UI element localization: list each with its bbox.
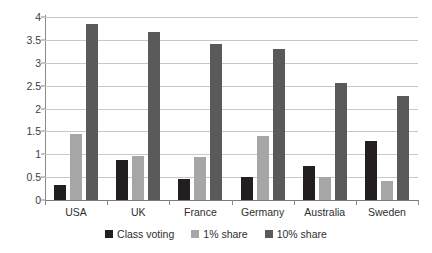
x-axis-category-label: UK [107,204,169,222]
y-axis-tick-label: 0 [3,195,41,206]
bar-group [294,17,356,200]
legend-label: 10% share [277,229,327,240]
y-axis-tick-label: 2.5 [3,80,41,91]
y-axis-tick-label: 2 [3,103,41,114]
x-axis-category-labels: USAUKFranceGermanyAustraliaSweden [45,204,418,222]
bar-chart: 00.511.522.533.54 USAUKFranceGermanyAust… [0,0,432,253]
x-axis-tick [418,200,419,205]
y-axis-tick-label: 1.5 [3,126,41,137]
bar [116,160,128,200]
bar [210,44,222,200]
y-axis-tick-labels: 00.511.522.533.54 [0,17,41,200]
y-axis-tick-label: 3.5 [3,35,41,46]
bar-group [356,17,418,200]
x-axis-category-label: USA [45,204,107,222]
legend-item[interactable]: 1% share [191,229,247,240]
bar-group [169,17,231,200]
bar [335,83,347,200]
x-axis-category-label: France [169,204,231,222]
bar [381,181,393,200]
x-axis-category-label: Australia [294,204,356,222]
x-axis-category-label: Germany [232,204,294,222]
bar [148,32,160,200]
x-axis-category-label: Sweden [356,204,418,222]
legend-label: Class voting [117,229,174,240]
bar [303,166,315,200]
bar [178,179,190,200]
bar [273,49,285,200]
bar-groups [45,17,418,200]
legend-item[interactable]: 10% share [265,229,327,240]
legend-swatch-icon [105,230,113,238]
bar [257,136,269,200]
y-axis-tick-label: 3 [3,58,41,69]
bar [54,185,66,200]
bar-group [107,17,169,200]
bar [397,96,409,200]
bar [241,177,253,200]
legend-swatch-icon [191,230,199,238]
y-axis-tick-label: 0.5 [3,172,41,183]
bar [319,177,331,200]
bar [86,24,98,200]
bar [132,156,144,200]
bar [70,134,82,200]
chart-legend: Class voting1% share10% share [0,229,432,240]
legend-swatch-icon [265,230,273,238]
bar-group [232,17,294,200]
bar-group [45,17,107,200]
legend-label: 1% share [203,229,247,240]
y-axis-tick-label: 1 [3,149,41,160]
bar [365,141,377,200]
legend-item[interactable]: Class voting [105,229,174,240]
y-axis-tick-label: 4 [3,12,41,23]
bar [194,157,206,200]
